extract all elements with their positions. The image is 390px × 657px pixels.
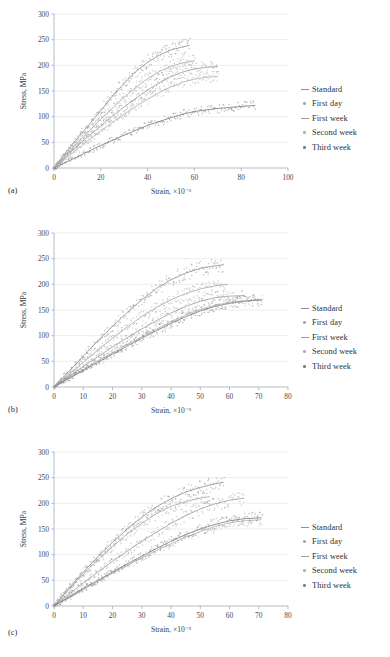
y-tick-label: 200 bbox=[38, 61, 49, 70]
series-points bbox=[53, 511, 264, 605]
legend-marker-icon bbox=[300, 99, 309, 108]
y-tick-label: 0 bbox=[45, 602, 49, 611]
y-tick-label: 50 bbox=[42, 138, 50, 147]
x-tick-label: 0 bbox=[52, 611, 56, 620]
legend-marker-icon bbox=[300, 128, 309, 137]
x-tick-label: 50 bbox=[197, 392, 205, 401]
y-tick-label: 100 bbox=[38, 550, 49, 559]
x-axis-title: Strain, ×10⁻³ bbox=[151, 406, 192, 415]
x-tick-label: 70 bbox=[255, 611, 263, 620]
legend-item-label: Second week bbox=[312, 347, 357, 356]
legend-marker-icon bbox=[300, 143, 309, 152]
y-tick-label: 250 bbox=[38, 473, 49, 482]
x-tick-label: 20 bbox=[97, 173, 105, 182]
legend-item-label: Standard bbox=[312, 304, 342, 313]
y-tick-label: 300 bbox=[38, 229, 49, 238]
x-tick-label: 70 bbox=[255, 392, 263, 401]
chart-panel-c: 05010015020025030001020304050607080Stres… bbox=[0, 438, 390, 657]
y-tick-label: 0 bbox=[45, 164, 49, 173]
legend-marker-icon bbox=[300, 362, 309, 371]
legend-marker-icon bbox=[300, 114, 309, 123]
series-points bbox=[54, 295, 264, 388]
x-axis-title: Strain, ×10⁻³ bbox=[151, 187, 192, 196]
stress-strain-chart-b: 05010015020025030001020304050607080Stres… bbox=[0, 219, 300, 419]
legend-item[interactable]: Second week bbox=[300, 345, 390, 360]
legend-item[interactable]: Third week bbox=[300, 578, 390, 593]
chart-panel-b: 05010015020025030001020304050607080Stres… bbox=[0, 219, 390, 438]
x-tick-label: 30 bbox=[138, 611, 146, 620]
legend-item[interactable]: First day bbox=[300, 316, 390, 331]
legend-item[interactable]: Third week bbox=[300, 359, 390, 374]
legend-item-label: Standard bbox=[312, 523, 342, 532]
x-tick-label: 40 bbox=[167, 611, 175, 620]
legend-item-label: Second week bbox=[312, 128, 357, 137]
x-tick-label: 50 bbox=[197, 611, 205, 620]
legend-marker-icon bbox=[300, 552, 309, 561]
series-fit-line bbox=[54, 300, 262, 387]
y-tick-label: 300 bbox=[38, 448, 49, 457]
legend-item[interactable]: Second week bbox=[300, 126, 390, 141]
legend-item-label: Third week bbox=[312, 581, 351, 590]
legend-item[interactable]: Standard bbox=[300, 301, 390, 316]
x-tick-label: 20 bbox=[109, 611, 117, 620]
legend-marker-icon bbox=[300, 566, 309, 575]
x-tick-label: 60 bbox=[226, 611, 234, 620]
y-tick-label: 250 bbox=[38, 254, 49, 263]
x-tick-label: 80 bbox=[284, 611, 292, 620]
x-tick-label: 80 bbox=[284, 392, 292, 401]
legend-item[interactable]: First day bbox=[300, 535, 390, 550]
panel-label-a: (a) bbox=[8, 186, 17, 195]
series-fit-line bbox=[54, 520, 262, 606]
y-tick-label: 200 bbox=[38, 280, 49, 289]
chart-panel-a: 050100150200250300020406080100Stress, MP… bbox=[0, 0, 390, 219]
legend-marker-icon bbox=[300, 581, 309, 590]
plot-area-a: 050100150200250300020406080100Stress, MP… bbox=[0, 0, 300, 200]
y-tick-label: 100 bbox=[38, 112, 49, 121]
legend-item-label: First week bbox=[312, 114, 348, 123]
x-tick-label: 10 bbox=[80, 392, 88, 401]
legend-item[interactable]: Standard bbox=[300, 82, 390, 97]
series-fit-line bbox=[54, 482, 224, 606]
x-tick-label: 40 bbox=[167, 392, 175, 401]
series-points bbox=[53, 477, 225, 607]
x-tick-label: 100 bbox=[282, 173, 293, 182]
x-tick-label: 60 bbox=[191, 173, 199, 182]
legend-a: StandardFirst dayFirst weekSecond weekTh… bbox=[300, 82, 390, 155]
legend-marker-icon bbox=[300, 333, 309, 342]
y-tick-label: 150 bbox=[38, 306, 49, 315]
plot-area-b: 05010015020025030001020304050607080Stres… bbox=[0, 219, 300, 419]
x-tick-label: 0 bbox=[52, 173, 56, 182]
y-tick-label: 250 bbox=[38, 35, 49, 44]
legend-item[interactable]: First week bbox=[300, 549, 390, 564]
x-axis-title: Strain, ×10⁻³ bbox=[151, 625, 192, 634]
stress-strain-chart-c: 05010015020025030001020304050607080Stres… bbox=[0, 438, 300, 638]
legend-b: StandardFirst dayFirst weekSecond weekTh… bbox=[300, 301, 390, 374]
panel-label-b: (b) bbox=[8, 405, 18, 414]
legend-item-label: Third week bbox=[312, 143, 351, 152]
y-axis-title: Stress, MPa bbox=[19, 510, 28, 547]
legend-marker-icon bbox=[300, 347, 309, 356]
series-points bbox=[54, 259, 224, 387]
legend-marker-icon bbox=[300, 85, 309, 94]
legend-item[interactable]: Third week bbox=[300, 140, 390, 155]
legend-item-label: Standard bbox=[312, 85, 342, 94]
y-axis-title: Stress, MPa bbox=[19, 291, 28, 328]
legend-item-label: First day bbox=[312, 318, 342, 327]
legend-item-label: First day bbox=[312, 99, 342, 108]
legend-item[interactable]: First week bbox=[300, 111, 390, 126]
x-tick-label: 30 bbox=[138, 392, 146, 401]
y-tick-label: 200 bbox=[38, 499, 49, 508]
legend-item[interactable]: Second week bbox=[300, 564, 390, 579]
y-tick-label: 50 bbox=[42, 357, 50, 366]
legend-item[interactable]: First day bbox=[300, 97, 390, 112]
y-tick-label: 100 bbox=[38, 331, 49, 340]
legend-item[interactable]: First week bbox=[300, 330, 390, 345]
legend-item-label: First day bbox=[312, 537, 342, 546]
y-tick-label: 150 bbox=[38, 525, 49, 534]
legend-marker-icon bbox=[300, 318, 309, 327]
series-fit-line bbox=[54, 45, 190, 168]
y-tick-label: 0 bbox=[45, 383, 49, 392]
legend-item[interactable]: Standard bbox=[300, 520, 390, 535]
legend-item-label: Third week bbox=[312, 362, 351, 371]
y-tick-label: 150 bbox=[38, 87, 49, 96]
